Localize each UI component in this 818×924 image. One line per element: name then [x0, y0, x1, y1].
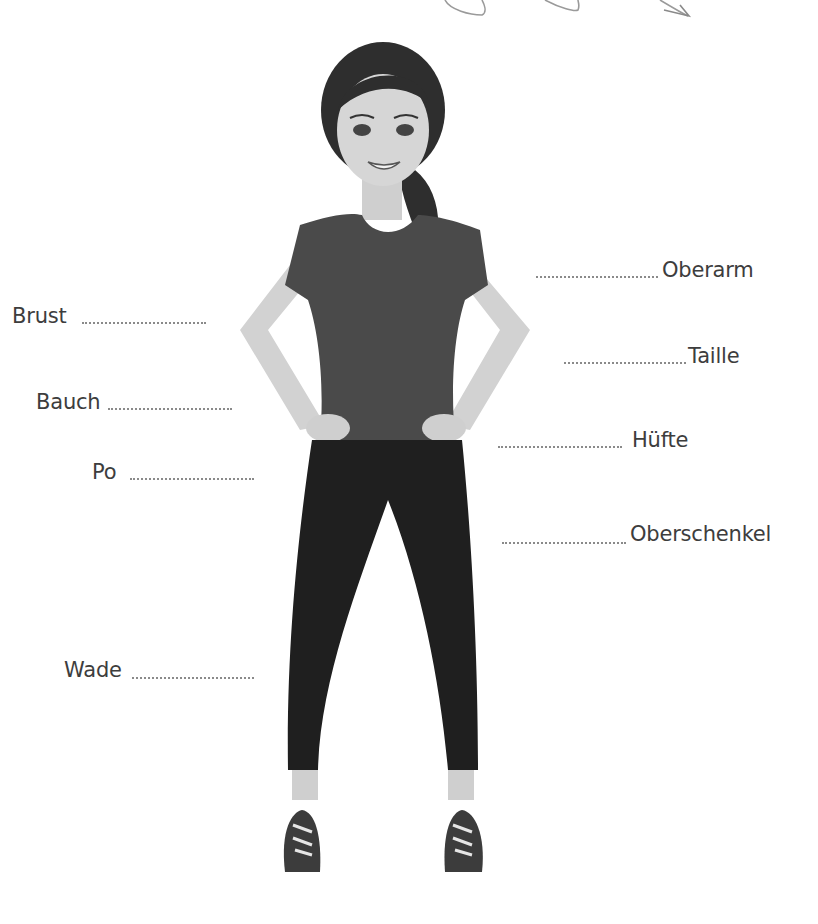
woman-figure-illustration: [0, 0, 818, 924]
label-huefte: Hüfte: [632, 428, 688, 452]
label-wade: Wade: [64, 658, 122, 682]
measurement-line-bauch[interactable]: [108, 408, 232, 410]
measurement-line-oberarm[interactable]: [536, 276, 658, 278]
label-taille: Taille: [688, 344, 739, 368]
label-oberschenkel: Oberschenkel: [630, 522, 771, 546]
measurement-line-huefte[interactable]: [498, 446, 622, 448]
measurement-line-brust[interactable]: [82, 322, 206, 324]
measurement-line-po[interactable]: [130, 478, 254, 480]
label-oberarm: Oberarm: [662, 258, 754, 282]
measurement-line-taille[interactable]: [564, 362, 686, 364]
label-po: Po: [92, 460, 116, 484]
label-brust: Brust: [12, 304, 67, 328]
measurement-line-wade[interactable]: [132, 677, 254, 679]
label-bauch: Bauch: [36, 390, 100, 414]
measurement-line-oberschenkel[interactable]: [502, 542, 626, 544]
body-measurement-worksheet: Brust Bauch Po Wade Oberarm Taille Hüfte…: [0, 0, 818, 924]
